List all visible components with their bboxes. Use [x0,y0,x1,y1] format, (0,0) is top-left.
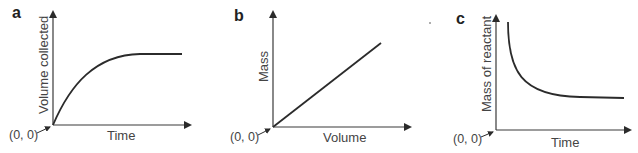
y-axis-label: Mass of reactant [479,16,494,112]
curve-c [508,22,624,98]
line-b [273,43,381,127]
y-axis-label: Mass [256,51,271,82]
panel-label: b [234,7,244,25]
curve-a [53,54,182,125]
x-axis-label: Time [551,135,579,150]
x-axis-label: Volume [323,130,366,145]
origin-label: (0, 0) [9,128,38,142]
panel-b: b Mass Volume (0, 0) [210,0,430,153]
chart-c-plot [420,0,638,153]
origin-pointer [258,129,270,135]
origin-pointer [37,127,50,133]
origin-pointer [481,132,493,137]
panel-a: a Volume collected Time (0, 0) [0,0,210,153]
panel-label: c [456,10,465,28]
panel-c: c Mass of reactant Time (0, 0) [420,0,638,153]
panel-label: a [12,4,21,22]
x-axis-label: Time [107,128,135,143]
stray-dot [429,22,431,24]
origin-label: (0, 0) [453,132,482,146]
y-axis-label: Volume collected [36,16,51,114]
origin-label: (0, 0) [230,130,259,144]
